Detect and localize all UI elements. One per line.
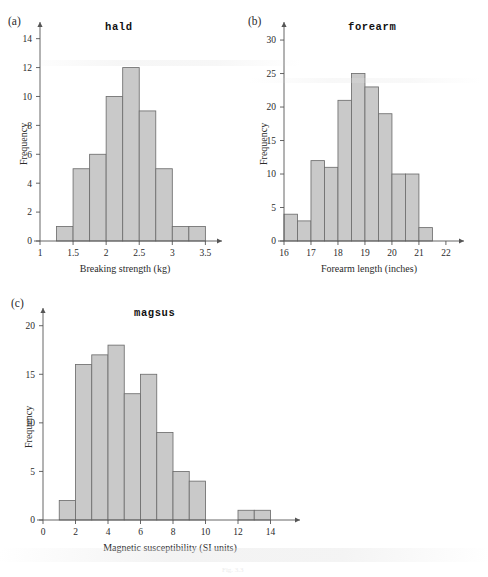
x-tick-label: 2 xyxy=(104,248,109,258)
x-tick-label: 10 xyxy=(201,527,211,537)
x-tick-label: 21 xyxy=(414,248,424,258)
plot-area-magsus: 0246810121405101520 xyxy=(0,288,360,568)
histogram-bar xyxy=(123,68,140,241)
x-axis-arrow-icon xyxy=(295,517,300,522)
histogram-bar xyxy=(156,169,173,241)
histogram-bar xyxy=(254,510,270,520)
x-tick-label: 20 xyxy=(387,248,397,258)
x-tick-label: 6 xyxy=(138,527,143,537)
histogram-bar xyxy=(189,481,205,520)
x-tick-label: 19 xyxy=(360,248,370,258)
histogram-bar xyxy=(59,501,75,520)
y-tick-label: 8 xyxy=(27,121,32,131)
y-tick-label: 6 xyxy=(27,150,32,160)
histogram-bar xyxy=(365,87,378,241)
y-tick-label: 20 xyxy=(26,321,36,331)
x-tick-label: 2 xyxy=(73,527,78,537)
histogram-bar xyxy=(338,100,351,241)
histogram-bar xyxy=(157,433,173,520)
y-tick-label: 2 xyxy=(27,207,32,217)
y-tick-label: 10 xyxy=(267,169,277,179)
histogram-bar xyxy=(378,114,391,241)
histogram-bar xyxy=(106,96,123,241)
histogram-bar xyxy=(392,174,405,241)
histogram-bar xyxy=(173,471,189,520)
histogram-panel-forearm: (b) forearm Frequency Forearm length (in… xyxy=(244,0,488,288)
histogram-panel-magsus: (c) magsus Frequency Magnetic susceptibi… xyxy=(0,288,360,568)
histogram-bar xyxy=(73,169,90,241)
histogram-panel-hald: (a) hald Frequency Breaking strength (kg… xyxy=(0,0,244,288)
x-tick-label: 12 xyxy=(233,527,243,537)
y-tick-label: 0 xyxy=(271,236,276,246)
x-tick-label: 14 xyxy=(266,527,276,537)
x-tick-label: 18 xyxy=(333,248,343,258)
histogram-bar xyxy=(57,227,74,241)
x-tick-label: 4 xyxy=(106,527,111,537)
y-tick-label: 14 xyxy=(23,34,33,44)
x-tick-label: 22 xyxy=(441,248,451,258)
histogram-bar xyxy=(139,111,156,241)
y-tick-label: 0 xyxy=(30,515,35,525)
histogram-bar xyxy=(172,227,189,241)
x-tick-label: 1 xyxy=(38,248,43,258)
histogram-bar xyxy=(351,74,364,241)
y-tick-label: 15 xyxy=(267,136,277,146)
y-tick-label: 0 xyxy=(27,236,32,246)
x-tick-label: 0 xyxy=(41,527,46,537)
histogram-bar xyxy=(324,167,337,241)
plot-area-forearm: 16171819202122051015202530 xyxy=(244,0,488,288)
y-tick-label: 20 xyxy=(267,102,277,112)
y-tick-label: 5 xyxy=(271,203,276,213)
x-tick-label: 17 xyxy=(306,248,316,258)
x-tick-label: 16 xyxy=(279,248,289,258)
histogram-bar xyxy=(189,227,206,241)
histogram-bar xyxy=(297,221,310,241)
x-tick-label: 3 xyxy=(170,248,175,258)
y-tick-label: 4 xyxy=(27,179,32,189)
x-tick-label: 8 xyxy=(171,527,176,537)
histogram-bar xyxy=(405,174,418,241)
y-tick-label: 10 xyxy=(26,418,36,428)
histogram-bar xyxy=(141,374,157,520)
x-axis-arrow-icon xyxy=(217,238,222,243)
figure-caption: Fig. 3.3 xyxy=(222,566,244,574)
histogram-bar xyxy=(124,394,140,520)
histogram-bar xyxy=(108,345,124,520)
y-tick-label: 5 xyxy=(30,467,35,477)
histogram-bar xyxy=(284,214,297,241)
y-axis-arrow-icon xyxy=(37,22,42,27)
x-tick-label: 3.5 xyxy=(199,248,211,258)
y-tick-label: 25 xyxy=(267,69,277,79)
y-tick-label: 30 xyxy=(267,35,277,45)
y-axis-arrow-icon xyxy=(281,22,286,27)
histogram-bar xyxy=(238,510,254,520)
y-tick-label: 10 xyxy=(23,92,33,102)
y-tick-label: 15 xyxy=(26,370,36,380)
histogram-bar xyxy=(92,355,108,520)
y-axis-arrow-icon xyxy=(40,308,45,313)
histogram-bar xyxy=(311,161,324,241)
x-tick-label: 2.5 xyxy=(133,248,145,258)
plot-area-hald: 11.522.533.502468101214 xyxy=(0,0,244,288)
y-tick-label: 12 xyxy=(23,63,33,73)
histogram-bar xyxy=(419,228,432,241)
histogram-bar xyxy=(76,365,92,520)
x-axis-arrow-icon xyxy=(459,238,464,243)
x-tick-label: 1.5 xyxy=(67,248,79,258)
histogram-bar xyxy=(90,154,107,241)
